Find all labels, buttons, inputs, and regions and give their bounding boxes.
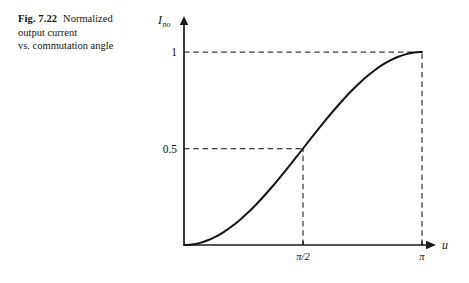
figure-number: Fig. 7.22: [18, 13, 57, 24]
y-axis-label: Ino: [157, 13, 171, 29]
x-axis-arrow-icon: [426, 241, 436, 249]
y-tick-label-1: 1: [171, 46, 177, 58]
chart-svg: Ino u 1 0.5 π/2 π: [150, 0, 469, 283]
caption-line-2: output current: [18, 27, 77, 38]
axes: [180, 16, 436, 249]
caption-line-1: Normalized: [63, 13, 113, 24]
figure-caption: Fig. 7.22Normalized output current vs. c…: [18, 12, 150, 53]
y-axis-label-subscript: no: [163, 20, 171, 29]
x-axis-label: u: [442, 238, 448, 252]
y-tick-label-0-5: 0.5: [163, 143, 178, 155]
y-axis-arrow-icon: [180, 16, 188, 25]
chart-figure: Ino u 1 0.5 π/2 π: [150, 0, 469, 283]
x-tick-label-pi: π: [419, 251, 425, 262]
caption-line-3: vs. commutation angle: [18, 40, 113, 51]
x-tick-label-half-pi: π/2: [296, 251, 310, 262]
